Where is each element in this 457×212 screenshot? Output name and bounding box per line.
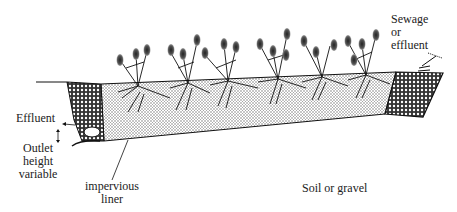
liner-leader — [112, 140, 128, 180]
label-inlet: Sewage or effluent — [391, 13, 428, 52]
arrowhead — [56, 129, 60, 132]
label-outlet-height-line3: variable — [18, 168, 58, 181]
label-outlet-height: Outlet height variable — [18, 142, 58, 181]
reed-bed-diagram — [0, 0, 457, 212]
label-effluent: Effluent — [16, 112, 55, 125]
seed-heads — [117, 28, 380, 66]
treatment-bed — [101, 72, 396, 141]
label-soil: Soil or gravel — [302, 182, 367, 195]
outlet-pipe — [84, 127, 100, 137]
arrowhead — [62, 122, 66, 126]
inlet-gravel-zone — [385, 72, 443, 117]
label-liner: impervious liner — [82, 180, 142, 206]
liner-lip — [72, 141, 100, 146]
inlet-spray-icon — [418, 53, 442, 71]
label-liner-line2: liner — [82, 193, 142, 206]
label-inlet-line3: effluent — [391, 39, 428, 52]
